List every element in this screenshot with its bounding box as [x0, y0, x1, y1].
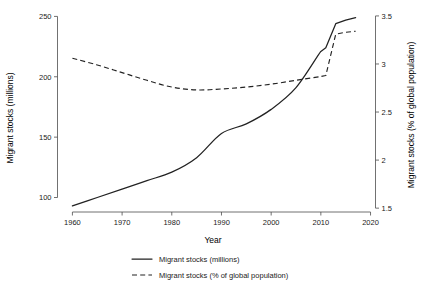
x-axis-tick-label: 2000 [263, 218, 280, 227]
x-axis-tick-label: 1990 [213, 218, 230, 227]
x-axis-title: Year [204, 235, 221, 245]
x-axis-tick-label: 1970 [114, 218, 131, 227]
series-line-2 [72, 31, 355, 90]
y-axis-right-tick-label: 3 [382, 60, 386, 69]
y-axis-right-tick-label: 2.5 [382, 108, 392, 117]
x-axis: 1960197019801990200020102020 [64, 212, 379, 227]
y-axis-right-title: Migrant stocks (% of global population) [406, 42, 416, 189]
x-axis-tick-label: 2010 [313, 218, 330, 227]
legend-label-2: Migrant stocks (% of global population) [159, 271, 289, 280]
chart-container: 100150200250 1.522.533.5 196019701980199… [0, 0, 426, 287]
series-line-1 [72, 18, 355, 206]
y-axis-left: 100150200250 [39, 12, 58, 202]
legend-label-1: Migrant stocks (millions) [159, 255, 240, 264]
y-axis-left-tick-label: 200 [39, 73, 52, 82]
y-axis-left-tick-label: 150 [39, 133, 52, 142]
y-axis-left-tick-label: 250 [39, 12, 52, 21]
migrant-stocks-line-chart: 100150200250 1.522.533.5 196019701980199… [0, 0, 426, 287]
y-axis-right-tick-label: 3.5 [382, 12, 392, 21]
y-axis-right-tick-label: 1.5 [382, 204, 392, 213]
chart-legend: Migrant stocks (millions)Migrant stocks … [132, 255, 289, 280]
x-axis-tick-label: 1960 [64, 218, 81, 227]
x-axis-tick-label: 1980 [163, 218, 180, 227]
x-axis-tick-label: 2020 [362, 218, 379, 227]
y-axis-right-tick-label: 2 [382, 156, 386, 165]
y-axis-right: 1.522.533.5 [376, 12, 392, 213]
series-lines [72, 18, 355, 206]
y-axis-left-title: Migrant stocks (millions) [5, 72, 15, 163]
y-axis-left-tick-label: 100 [39, 193, 52, 202]
